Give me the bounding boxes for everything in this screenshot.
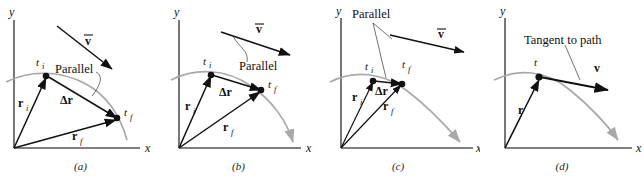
vector-r-final-c (341, 85, 401, 148)
label-t-final-c: t f (402, 58, 412, 74)
label-velocity-d: v (594, 61, 600, 75)
panel-b: y x Parallel v t i t f r i r f (161, 0, 316, 176)
svg-text:i: i (371, 65, 374, 75)
svg-text:t: t (365, 60, 369, 72)
label-t-final-a: t f (124, 106, 134, 122)
svg-text:t: t (36, 56, 40, 68)
panel-a: y x Parallel v t i t f r i r f (0, 0, 161, 176)
point-t-initial-a (43, 73, 50, 80)
label-r-final-b: r f (223, 120, 235, 137)
axis-label-y-c: y (335, 4, 342, 18)
label-r-d: r (518, 103, 524, 117)
svg-text:i: i (360, 97, 363, 107)
vector-r-final-a (14, 120, 116, 148)
label-average-velocity-c: v (437, 27, 446, 41)
label-r-initial-a: r i (18, 96, 29, 113)
panel-caption-b: (b) (161, 160, 316, 172)
label-parallel-a: Parallel (55, 62, 94, 76)
label-t-initial-c: t i (365, 60, 374, 75)
svg-text:r: r (383, 99, 389, 113)
label-r-final-a: r f (72, 129, 84, 146)
svg-text:f: f (80, 136, 84, 146)
svg-text:t: t (268, 78, 272, 90)
label-t-initial-b: t i (203, 55, 212, 70)
panel-caption-a: (a) (0, 160, 161, 172)
label-average-velocity-b: v (255, 22, 264, 36)
svg-text:f: f (130, 112, 134, 122)
point-t-final-a (114, 115, 121, 122)
panel-caption-c: (c) (316, 160, 480, 172)
svg-text:i: i (26, 103, 29, 113)
axis-label-y-b: y (173, 5, 180, 19)
axis-label-x-b: x (305, 141, 312, 155)
leader-line-parallel-c (373, 23, 392, 39)
svg-text:r: r (185, 99, 191, 113)
label-delta-r-a: Δr (60, 93, 74, 107)
panel-caption-d: (d) (480, 160, 644, 172)
label-parallel-b: Parallel (239, 59, 278, 73)
vector-r-initial-a (14, 78, 46, 148)
axis-label-y-a: y (8, 5, 15, 19)
axis-label-y-d: y (499, 4, 506, 18)
vector-velocity-d (540, 77, 608, 90)
trajectory-path-c (330, 74, 460, 142)
svg-text:f: f (231, 127, 235, 137)
label-parallel-c: Parallel (352, 7, 391, 21)
label-average-velocity-a: v (84, 34, 93, 48)
label-t-initial-a: t i (36, 56, 45, 71)
svg-text:i: i (209, 60, 212, 70)
vector-average-velocity-c (390, 35, 464, 52)
svg-text:f: f (391, 106, 395, 116)
panel-d: y x Tangent to path v t r (d) (480, 0, 644, 176)
point-t-final-c (399, 81, 406, 88)
svg-text:f: f (408, 64, 412, 74)
svg-text:t: t (203, 55, 207, 67)
svg-text:r: r (72, 129, 78, 143)
leader-line-tangent-d (565, 45, 580, 80)
svg-text:r: r (18, 96, 24, 110)
axis-label-x-a: x (144, 141, 151, 155)
label-t-d: t (534, 56, 538, 68)
label-r-initial-b: r i (185, 99, 196, 116)
svg-text:r: r (352, 90, 358, 104)
svg-text:t: t (402, 58, 406, 70)
axis-label-x-d: x (635, 141, 642, 155)
svg-text:r: r (223, 120, 229, 134)
leader-line-parallel-c2 (373, 23, 386, 78)
svg-text:v: v (85, 34, 91, 48)
panel-c: y x Parallel v t i t f r i r f (316, 0, 480, 176)
point-t-initial-b (208, 72, 215, 79)
label-r-initial-c: r i (352, 90, 363, 107)
svg-text:i: i (42, 61, 45, 71)
point-t-final-b (258, 87, 265, 94)
label-r-final-c: r f (383, 99, 395, 116)
point-t-d (535, 73, 542, 80)
trajectory-path-d (494, 73, 618, 140)
svg-text:f: f (274, 84, 278, 94)
label-delta-r-b: Δr (219, 85, 233, 99)
label-t-final-b: t f (268, 78, 278, 94)
svg-text:t: t (124, 106, 128, 118)
label-delta-r-c: Δr (375, 84, 389, 98)
axes-c (341, 18, 473, 148)
label-tangent-to-path-d: Tangent to path (524, 33, 602, 47)
physics-figure-displacement-velocity: y x Parallel v t i t f r i r f (0, 0, 644, 176)
